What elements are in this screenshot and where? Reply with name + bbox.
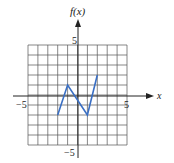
y-axis-label: f(x) <box>70 5 86 18</box>
x-axis-arrow-icon <box>146 93 154 99</box>
x-max-tick-label: 5 <box>124 99 129 110</box>
function-graph: f(x) x −5 5 5 −5 <box>0 0 174 163</box>
y-axis-arrow-icon <box>75 19 81 27</box>
y-max-tick-label: 5 <box>72 35 77 46</box>
x-min-tick-label: −5 <box>16 99 27 110</box>
x-axis-label: x <box>156 90 162 101</box>
y-min-tick-label: −5 <box>64 147 75 158</box>
